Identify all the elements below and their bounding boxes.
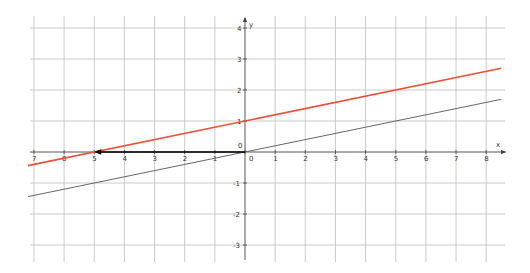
x-tick-label: 3 xyxy=(153,155,157,163)
x-tick-label: 2 xyxy=(303,155,307,163)
x-tick-label: 4 xyxy=(122,155,127,163)
x-tick-label: 4 xyxy=(364,155,369,163)
y-tick-label: 4 xyxy=(237,25,242,33)
x-axis-arrow-icon xyxy=(501,150,506,154)
y-tick-label: 2 xyxy=(237,87,241,95)
x-tick-label: 5 xyxy=(394,155,398,163)
origin-label: 0 xyxy=(238,142,242,150)
axes: xy0 xyxy=(30,17,506,260)
x-tick-label: 1 xyxy=(213,155,217,163)
x-tick-label: 5 xyxy=(92,155,96,163)
x-tick-label: 7 xyxy=(32,155,36,163)
arrow-head-icon xyxy=(94,149,101,155)
line-series-2 xyxy=(28,99,501,196)
x-tick-label: 0 xyxy=(249,155,253,163)
x-tick-label: 3 xyxy=(333,155,337,163)
x-tick-label: 2 xyxy=(183,155,187,163)
grid-lines xyxy=(30,16,505,262)
x-tick-label: 6 xyxy=(424,155,429,163)
y-tick-label: 3 xyxy=(237,56,241,64)
x-axis-label: x xyxy=(496,141,500,149)
y-tick-label: -3 xyxy=(233,242,240,250)
y-axis-label: y xyxy=(249,21,253,29)
data-series xyxy=(28,68,501,196)
y-tick-label: -2 xyxy=(233,211,240,219)
x-tick-label: 8 xyxy=(484,155,488,163)
y-tick-label: -1 xyxy=(233,180,240,188)
annotations xyxy=(94,149,245,155)
x-tick-label: 1 xyxy=(273,155,277,163)
chart-svg: xy0 7654321012345678-3-2-11234 xyxy=(0,0,530,273)
tick-labels: 7654321012345678-3-2-11234 xyxy=(32,25,489,250)
coordinate-plane-chart: xy0 7654321012345678-3-2-11234 xyxy=(0,0,530,273)
y-axis-arrow-icon xyxy=(243,17,247,22)
x-tick-label: 7 xyxy=(454,155,458,163)
